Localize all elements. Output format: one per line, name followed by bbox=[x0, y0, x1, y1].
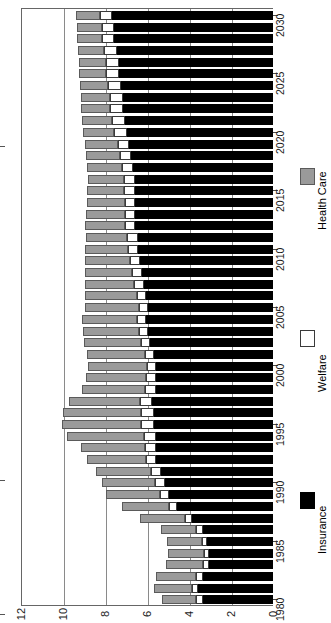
bar-segment-insurance bbox=[150, 338, 273, 347]
bar-segment-insurance bbox=[140, 256, 273, 265]
bar-segment-health bbox=[102, 478, 156, 487]
bar-row bbox=[88, 175, 273, 184]
bar-segment-health bbox=[87, 186, 124, 195]
bar-row bbox=[83, 327, 273, 336]
bar-segment-insurance bbox=[203, 525, 273, 534]
bar-row bbox=[82, 385, 273, 394]
bar-segment-welfare bbox=[112, 116, 125, 125]
bar-segment-welfare bbox=[185, 514, 192, 523]
bar-row bbox=[79, 58, 273, 67]
bar-segment-health bbox=[86, 151, 120, 160]
bar-row bbox=[81, 104, 273, 113]
bar-segment-welfare bbox=[110, 93, 123, 102]
bar-segment-insurance bbox=[154, 420, 273, 429]
bar-segment-health bbox=[140, 514, 185, 523]
bar-segment-health bbox=[79, 58, 106, 67]
bar-segment-health bbox=[77, 34, 102, 43]
bar-segment-health bbox=[85, 245, 128, 254]
bar-segment-health bbox=[69, 397, 139, 406]
bar-segment-welfare bbox=[125, 198, 136, 207]
bar-segment-insurance bbox=[198, 584, 273, 593]
bar-segment-health bbox=[63, 408, 141, 417]
bar-segment-welfare bbox=[137, 315, 146, 324]
value-tick-label: 8 bbox=[99, 601, 111, 623]
bar-segment-health bbox=[77, 23, 102, 32]
bar-segment-health bbox=[67, 432, 144, 441]
bar-segment-health bbox=[87, 198, 125, 207]
bar-row bbox=[82, 116, 273, 125]
bar-segment-welfare bbox=[125, 221, 136, 230]
bar-segment-welfare bbox=[169, 502, 177, 511]
bar-segment-insurance bbox=[142, 268, 273, 277]
bar-segment-insurance bbox=[152, 397, 273, 406]
bar-segment-insurance bbox=[114, 34, 273, 43]
bar-segment-insurance bbox=[156, 362, 273, 371]
bar-segment-insurance bbox=[119, 58, 273, 67]
bar-row bbox=[106, 490, 273, 499]
bar-segment-health bbox=[81, 104, 110, 113]
edge-tick-mark bbox=[0, 480, 5, 481]
bar-segment-insurance bbox=[138, 245, 273, 254]
bar-segment-insurance bbox=[138, 233, 273, 242]
bar-row bbox=[88, 362, 273, 371]
bar-segment-welfare bbox=[130, 256, 139, 265]
bar-segment-health bbox=[82, 385, 145, 394]
bar-segment-insurance bbox=[112, 11, 273, 20]
category-tick-label: 1985 bbox=[274, 529, 286, 563]
bar-segment-health bbox=[85, 280, 134, 289]
bar-row bbox=[85, 268, 273, 277]
bar-segment-insurance bbox=[203, 572, 273, 581]
bar-row bbox=[154, 584, 273, 593]
bar-segment-insurance bbox=[148, 303, 273, 312]
bar-segment-insurance bbox=[156, 432, 273, 441]
bar-segment-welfare bbox=[141, 338, 150, 347]
bar-segment-health bbox=[85, 268, 132, 277]
bar-segment-insurance bbox=[177, 502, 273, 511]
bar-segment-health bbox=[85, 291, 136, 300]
bar-row bbox=[67, 432, 273, 441]
bar-row bbox=[85, 245, 273, 254]
bar-segment-insurance bbox=[146, 291, 273, 300]
legend-label: Insurance bbox=[316, 506, 328, 554]
bar-row bbox=[162, 595, 273, 604]
bar-segment-health bbox=[85, 140, 118, 149]
category-tick-label: 2025 bbox=[274, 61, 286, 95]
category-tick-label: 2005 bbox=[274, 295, 286, 329]
bar-segment-health bbox=[79, 69, 106, 78]
bar-segment-welfare bbox=[137, 291, 146, 300]
bar-segment-health bbox=[81, 443, 145, 452]
bar-segment-welfare bbox=[120, 151, 132, 160]
bar-segment-health bbox=[83, 128, 115, 137]
category-tick-label: 2015 bbox=[274, 178, 286, 212]
bar-segment-health bbox=[167, 537, 202, 546]
bar-segment-insurance bbox=[203, 595, 273, 604]
bar-row bbox=[78, 46, 273, 55]
bar-row bbox=[87, 186, 273, 195]
bar-row bbox=[86, 151, 273, 160]
bar-segment-welfare bbox=[140, 397, 153, 406]
bar-segment-health bbox=[154, 584, 192, 593]
bar-segment-welfare bbox=[125, 210, 136, 219]
chart-legend: Health CareWelfareInsurance bbox=[296, 0, 331, 623]
bar-row bbox=[168, 549, 273, 558]
legend-swatch-health-care bbox=[300, 168, 315, 185]
bar-segment-welfare bbox=[160, 490, 169, 499]
bar-segment-health bbox=[168, 549, 204, 558]
bar-segment-welfare bbox=[122, 163, 134, 172]
bar-row bbox=[102, 478, 273, 487]
bar-segment-insurance bbox=[156, 373, 273, 382]
bar-segment-welfare bbox=[141, 420, 155, 429]
bar-segment-health bbox=[86, 373, 146, 382]
bar-row bbox=[96, 467, 273, 476]
value-tick-label: 4 bbox=[183, 601, 195, 623]
bar-segment-welfare bbox=[147, 362, 156, 371]
edge-tick-mark bbox=[0, 614, 5, 615]
category-tick-label: 2010 bbox=[274, 237, 286, 271]
bar-segment-insurance bbox=[154, 408, 273, 417]
bar-segment-insurance bbox=[135, 198, 273, 207]
bar-row bbox=[84, 338, 273, 347]
bar-segment-welfare bbox=[118, 140, 130, 149]
bar-row bbox=[161, 525, 273, 534]
bar-row bbox=[85, 280, 273, 289]
bar-segment-health bbox=[80, 81, 108, 90]
